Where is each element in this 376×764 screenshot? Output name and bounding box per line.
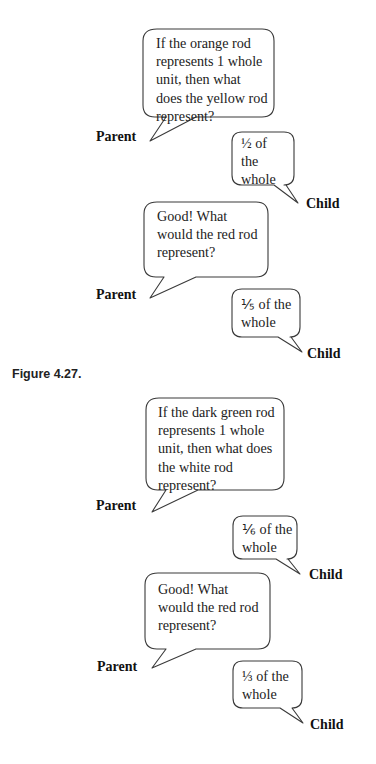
figure-caption: Figure 4.27.: [12, 367, 81, 381]
parent-utterance: Good! What would the red rod represent?: [157, 207, 257, 262]
text-line: unit, then what does: [158, 439, 275, 457]
text-line: represents 1 whole: [158, 421, 275, 439]
child-utterance: ⅕ of the whole: [241, 295, 291, 331]
speaker-label-child: Child: [310, 717, 343, 733]
text-line: represent?: [158, 476, 275, 494]
text-line: ⅕ of the: [241, 295, 291, 313]
parent-utterance: If the orange rod represents 1 whole uni…: [156, 34, 268, 125]
text-line: If the dark green rod: [158, 403, 275, 421]
text-line: If the orange rod: [156, 34, 268, 52]
parent-utterance: If the dark green rod represents 1 whole…: [158, 403, 275, 494]
speaker-label-child: Child: [306, 196, 339, 212]
text-line: whole: [242, 538, 292, 556]
text-line: would the red rod: [158, 598, 258, 616]
speaker-label-child: Child: [309, 567, 342, 583]
text-line: represent?: [158, 616, 258, 634]
text-line: whole: [241, 170, 276, 188]
text-line: whole: [241, 313, 291, 331]
text-line: represents 1 whole: [156, 52, 268, 70]
text-line: represent?: [156, 107, 268, 125]
child-utterance: ½ of the whole: [241, 134, 276, 189]
parent-utterance: Good! What would the red rod represent?: [158, 580, 258, 635]
speaker-label-parent: Parent: [96, 498, 136, 514]
text-line: whole: [242, 685, 289, 703]
text-line: would the red rod: [157, 225, 257, 243]
text-line: the: [241, 152, 276, 170]
child-utterance: ⅓ of the whole: [242, 667, 289, 703]
speaker-label-child: Child: [307, 346, 340, 362]
text-line: represent?: [157, 243, 257, 261]
text-line: the white rod: [158, 458, 275, 476]
text-line: ½ of: [241, 134, 276, 152]
child-utterance: ⅙ of the whole: [242, 520, 292, 556]
text-line: ⅙ of the: [242, 520, 292, 538]
text-line: Good! What: [157, 207, 257, 225]
speaker-label-parent: Parent: [97, 659, 137, 675]
text-line: does the yellow rod: [156, 89, 268, 107]
speaker-label-parent: Parent: [96, 129, 136, 145]
text-line: ⅓ of the: [242, 667, 289, 685]
text-line: Good! What: [158, 580, 258, 598]
text-line: unit, then what: [156, 70, 268, 88]
speaker-label-parent: Parent: [96, 287, 136, 303]
